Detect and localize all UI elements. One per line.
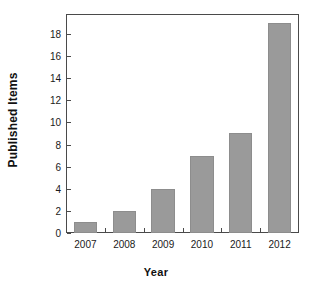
bar-2007[interactable] [74,222,97,233]
x-axis-title-label: Year [144,266,168,278]
y-tick-mark [67,34,71,35]
x-tick-mark [144,228,145,233]
x-tick-mark [260,228,261,233]
y-tick-label: 2 [39,205,61,216]
bar-chart: Published Items 024681012141618200720082… [0,0,312,294]
y-tick-mark [67,122,71,123]
x-tick-mark [105,228,106,233]
y-tick-label: 18 [39,28,61,39]
y-tick-mark [67,233,71,234]
y-tick-label: 0 [39,228,61,239]
plot-area [66,14,299,233]
y-tick-label: 12 [39,95,61,106]
y-tick-label: 14 [39,73,61,84]
x-tick-mark [183,228,184,233]
y-tick-mark [67,167,71,168]
y-tick-label: 10 [39,117,61,128]
bar-2010[interactable] [190,156,213,233]
y-axis-title-label: Published Items [6,72,20,167]
x-tick-label: 2009 [152,239,174,250]
y-axis-title: Published Items [0,0,26,240]
bar-2008[interactable] [113,211,136,233]
y-tick-label: 6 [39,161,61,172]
y-tick-mark [67,78,71,79]
x-tick-label: 2012 [268,239,290,250]
bar-2009[interactable] [151,189,174,233]
bar-2011[interactable] [229,133,252,233]
y-tick-mark [67,56,71,57]
x-tick-label: 2011 [230,239,252,250]
y-tick-label: 8 [39,139,61,150]
x-tick-label: 2010 [191,239,213,250]
bar-2012[interactable] [268,23,291,233]
y-tick-label: 16 [39,51,61,62]
y-tick-mark [67,211,71,212]
x-tick-label: 2008 [113,239,135,250]
x-tick-label: 2007 [74,239,96,250]
y-tick-mark [67,100,71,101]
y-tick-mark [67,145,71,146]
y-tick-label: 4 [39,183,61,194]
y-tick-mark [67,189,71,190]
x-tick-mark [221,228,222,233]
x-axis-title: Year [0,266,312,278]
